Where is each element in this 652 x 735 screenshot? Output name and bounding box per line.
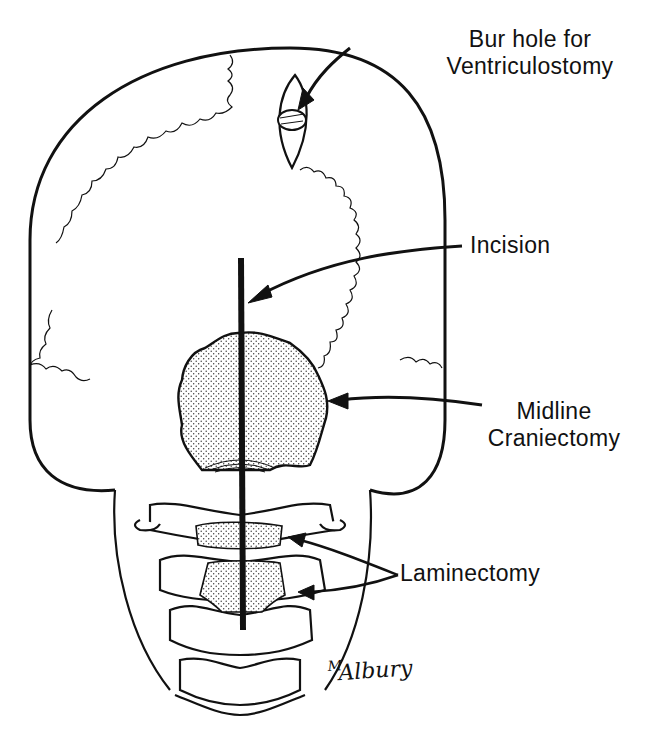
signature-name: Albury [338,655,414,685]
label-midline-line1: Midline [456,398,652,425]
label-bur-hole-line2: Ventriculostomy [408,53,652,80]
occipitomastoid-suture-right [400,357,442,368]
skull-spine-illustration [0,0,652,735]
lambdoid-suture-left [56,55,233,243]
label-laminectomy: Laminectomy [400,560,540,587]
signature-initial: M [327,657,342,674]
label-bur-hole-line1: Bur hole for [408,26,652,53]
label-incision: Incision [470,232,550,259]
incision-line [241,258,243,630]
occipitomastoid-suture-left [30,364,90,381]
label-midline-line2: Craniectomy [456,425,652,452]
lambdoid-suture-left-lower [30,310,52,368]
label-bur-hole: Bur hole for Ventriculostomy [408,26,652,80]
label-midline-craniectomy: Midline Craniectomy [456,398,652,452]
laminectomy-region-upper [196,522,282,549]
craniectomy-region [178,332,327,470]
